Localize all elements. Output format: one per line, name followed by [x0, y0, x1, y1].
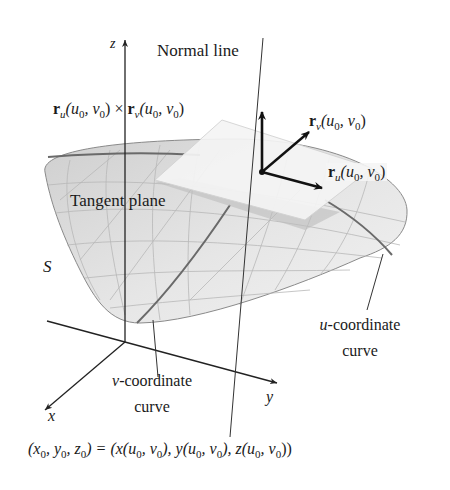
- cross-product-label: ru(u0, v0) × rv(u0, v0): [53, 100, 184, 118]
- diagram-canvas: [0, 0, 450, 490]
- point-on-surface: [259, 169, 265, 175]
- u-coordinate-curve-label: u-coordinate curve: [305, 316, 415, 360]
- point-equation-label: (x0, y0, z0) = (x(u0, v0), y(u0, v0), z(…: [28, 440, 292, 458]
- tangent-plane-diagram: z Normal line ru(u0, v0) × rv(u0, v0) rv…: [0, 0, 450, 490]
- rv-vector-label: rv(u0, v0): [309, 112, 366, 130]
- x-axis-label: x: [48, 407, 55, 425]
- z-axis-label: z: [110, 35, 115, 53]
- ru-vector-label: ru(u0, v0): [326, 163, 387, 181]
- y-axis-label: y: [266, 388, 273, 406]
- normal-line-label: Normal line: [157, 42, 239, 60]
- v-coordinate-curve-label: v-coordinate curve: [97, 372, 207, 416]
- v-curve-leader: [153, 320, 158, 377]
- tangent-plane-label: Tangent plane: [70, 192, 166, 210]
- u-curve-leader: [367, 254, 383, 310]
- surface-label: S: [43, 258, 52, 276]
